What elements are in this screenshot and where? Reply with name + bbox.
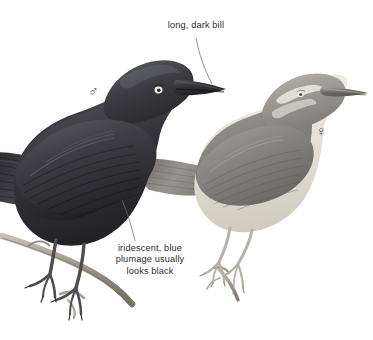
male-bill	[173, 80, 226, 95]
female-sex-symbol: ♀	[316, 124, 327, 138]
illustration-plate: long, dark bill iridescent, blueplumage …	[0, 0, 373, 340]
annotation-plumage-line-1: iridescent, blue	[118, 243, 182, 253]
female-pupil	[299, 93, 302, 96]
female-claws	[200, 274, 244, 294]
male-sex-symbol: ♂	[88, 84, 99, 98]
bird-illustration-artwork	[0, 0, 373, 340]
annotation-long-dark-bill: long, dark bill	[148, 20, 244, 31]
annotation-plumage-line-2: plumage usually	[116, 254, 185, 264]
annotation-plumage-line-3: looks black	[126, 266, 173, 276]
leader-line-bill	[196, 38, 212, 84]
male-pupil	[157, 89, 161, 92]
annotation-iridescent-plumage: iridescent, blueplumage usuallylooks bla…	[94, 243, 206, 277]
